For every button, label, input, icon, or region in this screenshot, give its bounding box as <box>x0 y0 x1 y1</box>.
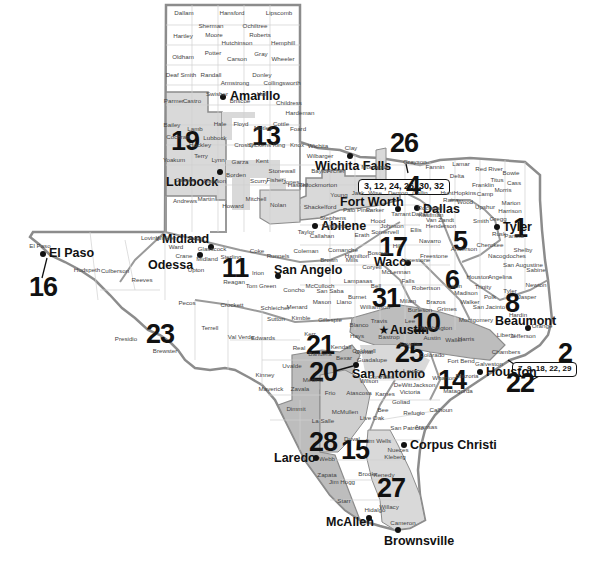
county-label: Hill <box>393 243 402 249</box>
county-label: Medina <box>303 377 323 383</box>
county-label: Travis <box>371 318 388 324</box>
county-label: Jim Wells <box>365 438 391 444</box>
county-label: Harris <box>458 336 475 342</box>
city-label-odessa: Odessa <box>148 259 193 272</box>
county-label: Clay <box>345 145 357 151</box>
county-label: Hudspeth <box>74 267 101 273</box>
county-label: Colorado <box>419 352 444 358</box>
county-label: Madison <box>454 290 477 296</box>
county-label: Henderson <box>426 223 456 229</box>
county-label: Dawson <box>204 178 226 184</box>
county-label: Fisher <box>266 177 283 183</box>
county-label: Menard <box>287 304 308 310</box>
county-label: Montague <box>361 164 389 170</box>
county-label: Angelina <box>488 274 512 280</box>
county-label: Lubbock <box>203 135 226 141</box>
county-label: Sterling <box>221 254 242 260</box>
county-label: Victoria <box>400 389 421 395</box>
county-label: Refugio <box>403 410 424 416</box>
county-label: Live Oak <box>360 415 384 421</box>
county-label: Robertson <box>412 285 441 291</box>
county-label: San Jacinto <box>473 304 505 310</box>
county-label: Brown <box>320 257 338 263</box>
county-label: Swisher <box>206 91 228 97</box>
county-label: Austin <box>423 335 440 341</box>
county-label: Oldham <box>172 54 194 60</box>
county-label: Dallam <box>174 10 193 16</box>
county-label: Somervell <box>371 229 399 235</box>
county-label: Terry <box>194 153 208 159</box>
county-label: McLennan <box>382 269 411 275</box>
county-label: San Patricio <box>390 425 423 431</box>
county-label: Red River <box>475 166 503 172</box>
county-label: Bell <box>371 283 381 289</box>
county-label: Willacy <box>379 504 399 510</box>
county-label: Scurry <box>250 178 268 184</box>
county-label: Pecos <box>178 300 195 306</box>
county-label: Sherman <box>198 23 223 29</box>
county-label: Reagan <box>223 279 245 285</box>
county-label: Webb <box>319 456 335 462</box>
city-label-mcallen: McAllen <box>326 516 374 529</box>
region-number-16: 16 <box>29 274 57 301</box>
county-label: Deaf Smith <box>166 72 197 78</box>
county-label: Lamb <box>187 126 202 132</box>
county-label: Randall <box>201 72 222 78</box>
county-label: Delta <box>450 173 464 179</box>
county-label: Chambers <box>492 349 521 355</box>
county-label: Lee <box>405 318 415 324</box>
county-label: Fannin <box>426 164 445 170</box>
county-label: Midland <box>196 256 218 262</box>
county-label: Culberson <box>101 268 129 274</box>
county-label: Howard <box>222 203 243 209</box>
county-label: Wilson <box>360 378 379 384</box>
county-label: Panola <box>504 233 523 239</box>
county-label: Gray <box>254 51 267 57</box>
texas-map <box>0 0 604 568</box>
county-label: Montgomery <box>459 317 493 323</box>
county-label: Matagorda <box>443 388 473 394</box>
county-label: Bailey <box>164 122 181 128</box>
county-label: Navarro <box>419 238 441 244</box>
county-label: Stonewall <box>269 168 296 174</box>
county-label: Fort Bend <box>447 358 474 364</box>
county-label: Callahan <box>310 233 334 239</box>
county-label: Castro <box>183 98 201 104</box>
county-label: Shelby <box>514 247 533 253</box>
county-label: Knox <box>290 142 304 148</box>
county-label: Winkler <box>156 235 177 241</box>
county-label: San Saba <box>316 288 343 294</box>
city-label-san-angelo: San Angelo <box>274 264 342 277</box>
county-label: Motley <box>254 125 272 131</box>
county-label: Coleman <box>294 248 319 254</box>
county-label: Wood <box>457 199 473 205</box>
county-label: Burnet <box>348 294 366 300</box>
county-label: Jones <box>283 179 300 185</box>
county-label: Williamson <box>360 304 390 310</box>
county-label: Polk <box>484 294 496 300</box>
county-label: Erath <box>355 232 370 238</box>
county-label: Blanco <box>350 322 369 328</box>
county-label: Nacogdoches <box>488 253 526 259</box>
county-label: Burleson <box>408 307 432 313</box>
county-label: Real <box>293 345 306 351</box>
county-label: Orange <box>532 323 553 329</box>
county-label: Wheeler <box>271 56 294 62</box>
county-label: Lavaca <box>403 368 423 374</box>
county-label: Grayson <box>403 159 426 165</box>
county-label: Freestone <box>420 253 448 259</box>
county-label: Coke <box>250 248 264 254</box>
county-label: Tarrant <box>391 211 410 217</box>
county-label: Bee <box>377 407 388 413</box>
county-label: Newton <box>526 282 547 288</box>
county-label: Runnels <box>267 253 290 259</box>
county-label: Ellis <box>410 227 421 233</box>
county-label: Armstrong <box>221 80 250 86</box>
county-label: Lamar <box>452 161 470 167</box>
county-label: Dimmit <box>286 406 305 412</box>
county-label: Archer <box>327 168 345 174</box>
county-label: Collin <box>412 190 427 196</box>
county-label: Lynn <box>211 157 224 163</box>
county-label: Rockwall <box>418 205 443 211</box>
county-label: Hartley <box>173 33 193 39</box>
